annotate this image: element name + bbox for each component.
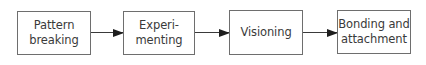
node-visioning: Visioning [229, 10, 303, 55]
flow-diagram: Pattern breaking Experi- menting Visioni… [0, 0, 426, 65]
arrow-visioning-to-bonding [303, 32, 337, 33]
node-experimenting: Experi- menting [123, 11, 195, 55]
arrow-experimenting-to-visioning [195, 32, 229, 33]
node-pattern-breaking: Pattern breaking [17, 11, 91, 55]
arrow-pattern-breaking-to-experimenting [91, 32, 123, 33]
node-bonding-and-attachment: Bonding and attachment [337, 10, 411, 54]
